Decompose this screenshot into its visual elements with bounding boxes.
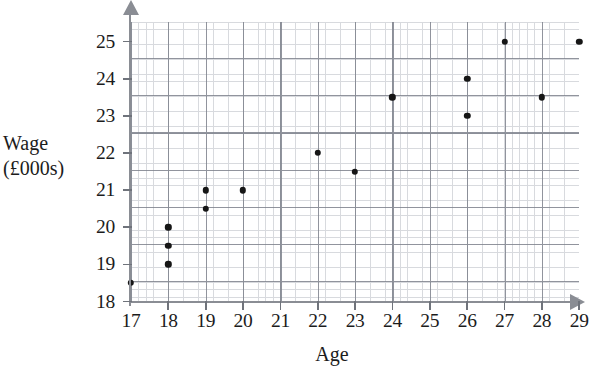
y-tick-label: 23 xyxy=(85,106,115,126)
y-tick xyxy=(123,152,132,154)
x-tick xyxy=(167,301,169,310)
x-tick-label: 20 xyxy=(226,311,260,331)
x-tick xyxy=(392,301,394,310)
x-tick xyxy=(541,301,543,310)
scatter-chart: 1819202122232425 17181920212223242526272… xyxy=(0,0,616,383)
x-tick-label: 19 xyxy=(189,311,223,331)
y-tick-label: 24 xyxy=(85,69,115,89)
y-tick-label: 21 xyxy=(85,180,115,200)
x-tick xyxy=(466,301,468,310)
x-tick xyxy=(242,301,244,310)
x-tick-label: 27 xyxy=(488,311,522,331)
y-tick xyxy=(123,226,132,228)
x-tick-label: 26 xyxy=(450,311,484,331)
y-tick xyxy=(123,41,132,43)
y-tick-label: 25 xyxy=(85,32,115,52)
data-point xyxy=(576,38,582,44)
x-axis-title: Age xyxy=(0,343,616,365)
y-axis-arrow-icon xyxy=(123,0,139,15)
x-tick-label: 29 xyxy=(562,311,596,331)
y-tick-label: 20 xyxy=(85,217,115,237)
x-tick xyxy=(354,301,356,310)
y-tick-label: 18 xyxy=(85,292,115,312)
x-tick xyxy=(280,301,282,310)
x-tick-label: 22 xyxy=(301,311,335,331)
x-tick xyxy=(578,301,580,310)
x-tick xyxy=(504,301,506,310)
x-tick-label: 25 xyxy=(413,311,447,331)
x-tick-label: 17 xyxy=(114,311,148,331)
x-tick-label: 24 xyxy=(375,311,409,331)
y-tick xyxy=(123,115,132,117)
major-gridlines xyxy=(131,22,579,302)
y-tick-label: 19 xyxy=(85,254,115,274)
x-tick xyxy=(317,301,319,310)
y-tick xyxy=(123,78,132,80)
y-axis-title-line1: Wage xyxy=(3,131,115,156)
x-tick-label: 28 xyxy=(525,311,559,331)
x-tick-label: 18 xyxy=(151,311,185,331)
y-axis-line xyxy=(129,14,131,306)
y-tick xyxy=(123,189,132,191)
plot-area xyxy=(131,22,579,302)
x-tick-label: 23 xyxy=(338,311,372,331)
x-tick xyxy=(429,301,431,310)
x-tick-label: 21 xyxy=(263,311,297,331)
x-axis-line xyxy=(129,301,575,303)
y-tick xyxy=(123,301,132,303)
y-axis-title-line2: (£000s) xyxy=(3,156,115,181)
x-tick xyxy=(205,301,207,310)
y-axis-title: Wage (£000s) xyxy=(3,131,115,181)
y-tick xyxy=(123,264,132,266)
